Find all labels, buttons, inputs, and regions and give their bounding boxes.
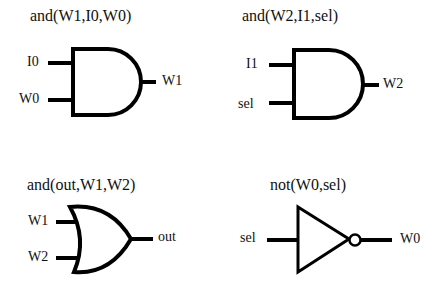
gate-1-input-a-label: I0 [27,54,39,70]
and-gate-2 [269,50,379,118]
gate-diagram [0,0,440,288]
gate-1-input-b-label: W0 [19,91,39,107]
gate-4-title: not(W0,sel) [270,176,346,194]
or-gate-3 [56,207,153,273]
gate-1-output-label: W1 [162,73,182,89]
gate-3-input-b-label: W2 [28,249,48,265]
gate-2-input-b-label: sel [238,96,254,112]
gate-1-title: and(W1,I0,W0) [30,7,131,25]
gate-2-input-a-label: I1 [246,56,258,72]
gate-3-input-a-label: W1 [28,213,48,229]
gate-4-output-label: W0 [400,231,420,247]
not-gate-4-triangle [298,207,349,272]
gate-3-title: and(out,W1,W2) [27,176,135,194]
not-gate-4-bubble [350,235,361,246]
and-gate-2-body [294,50,363,118]
and-gate-1-body [73,49,141,115]
or-gate-3-body [70,207,131,273]
and-gate-1 [48,49,156,115]
gate-2-title: and(W2,I1,sel) [242,7,338,25]
gate-3-output-label: out [158,229,176,245]
not-gate-4 [267,207,392,272]
gate-2-output-label: W2 [383,76,403,92]
gate-4-input-label: sel [240,230,256,246]
